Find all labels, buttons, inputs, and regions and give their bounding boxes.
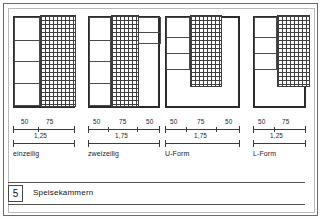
dim-segment-label: 50 <box>93 118 100 125</box>
figure-caption-l-form: L-Form <box>253 150 276 157</box>
shelf-unit <box>166 37 190 54</box>
shelf-unit <box>89 83 111 106</box>
shelf-unit <box>254 53 277 70</box>
dim-line-segments <box>88 129 160 130</box>
shelf-unit <box>14 40 40 62</box>
dimensions-l-form: 50 75 1,25 L-Form <box>253 118 306 158</box>
dim-segment-label: 50 <box>146 118 153 125</box>
dim-segment-label: 75 <box>197 118 204 125</box>
shelf-unit <box>89 61 111 84</box>
plan-zweizeilig <box>88 16 160 108</box>
dim-tick <box>305 126 306 133</box>
plan-einzeilig <box>13 16 75 108</box>
sheet-title-bar: 5 Speisekammern <box>8 182 305 205</box>
shelf-unit <box>14 17 40 41</box>
shelf-unit <box>166 17 190 38</box>
figure-caption-u-form: U-Form <box>165 150 189 157</box>
circulation-zone <box>190 15 222 87</box>
dim-segment-label: 50 <box>225 118 232 125</box>
dim-segment-label: 75 <box>282 118 289 125</box>
dim-tick <box>305 140 306 147</box>
dim-tick <box>165 140 166 147</box>
dim-tick <box>74 140 75 147</box>
dim-tick <box>239 140 240 147</box>
drawing-sheet: 50 75 1,25 einzeilig 50 75 50 1,75 zweiz… <box>0 0 321 219</box>
dim-total-label: 1,75 <box>115 132 128 139</box>
circulation-zone <box>111 15 139 107</box>
dim-tick <box>137 127 138 132</box>
dim-line-total <box>88 143 160 144</box>
sheet-number: 5 <box>8 185 23 202</box>
dimensions-zweizeilig: 50 75 50 1,75 zweizeilig <box>88 118 160 158</box>
dim-segment-label: 50 <box>258 118 265 125</box>
dim-tick <box>253 126 254 133</box>
figure-caption-zweizeilig: zweizeilig <box>88 150 119 157</box>
dim-tick <box>253 140 254 147</box>
dim-tick <box>159 126 160 133</box>
dim-segment-label: 75 <box>119 118 126 125</box>
dim-line-total <box>253 143 306 144</box>
dim-segment-label: 50 <box>21 118 28 125</box>
dim-tick <box>159 140 160 147</box>
dim-segment-label: 50 <box>170 118 177 125</box>
dim-total-label: 1,25 <box>270 132 283 139</box>
shelf-unit <box>138 32 161 44</box>
title-bar-rule <box>8 204 305 205</box>
dimensions-einzeilig: 50 75 1,25 einzeilig <box>13 118 75 158</box>
dim-tick <box>186 127 187 132</box>
dimensions-u-form: 50 75 50 1,75 U-Form <box>165 118 240 158</box>
shelf-unit <box>14 61 40 84</box>
dim-line-segments <box>13 129 75 130</box>
shelf-unit <box>89 40 111 62</box>
shelf-unit <box>254 17 277 38</box>
dim-line-segments <box>165 129 240 130</box>
shelf-unit <box>138 17 161 33</box>
circulation-zone <box>277 15 310 87</box>
shelf-unit <box>254 37 277 54</box>
dim-total-label: 1,75 <box>194 132 207 139</box>
dim-line-total <box>165 143 240 144</box>
shelf-unit <box>14 83 40 106</box>
dim-tick <box>165 126 166 133</box>
shelf-unit <box>166 53 190 70</box>
dim-line-total <box>13 143 75 144</box>
dim-tick <box>108 127 109 132</box>
dim-tick <box>88 140 89 147</box>
dim-tick <box>216 127 217 132</box>
dim-tick <box>13 126 14 133</box>
dim-tick <box>74 126 75 133</box>
dim-tick <box>239 126 240 133</box>
sheet-title: Speisekammern <box>33 188 93 197</box>
dim-tick <box>13 140 14 147</box>
shelf-unit <box>89 17 111 41</box>
floor-plan-figures <box>0 0 321 112</box>
dim-total-label: 1,25 <box>34 132 47 139</box>
figure-caption-einzeilig: einzeilig <box>13 150 39 157</box>
plan-l-form <box>253 16 306 108</box>
circulation-zone <box>40 15 76 107</box>
plan-u-form <box>165 16 240 108</box>
dim-tick <box>88 126 89 133</box>
dim-line-segments <box>253 129 306 130</box>
dim-segment-label: 75 <box>46 118 53 125</box>
